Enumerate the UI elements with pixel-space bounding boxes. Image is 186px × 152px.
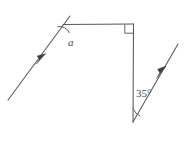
- right-transversal-line: [133, 44, 178, 122]
- angle-35-label: 35°: [136, 87, 151, 99]
- geometry-diagram-canvas: a 35°: [0, 0, 186, 152]
- right-angle-marker-icon: [125, 24, 134, 33]
- angle-a-label: a: [68, 36, 74, 48]
- geometry-figure: a 35°: [0, 0, 186, 152]
- top-horizontal-segment: [63, 24, 134, 25]
- right-vertical-segment: [133, 24, 134, 122]
